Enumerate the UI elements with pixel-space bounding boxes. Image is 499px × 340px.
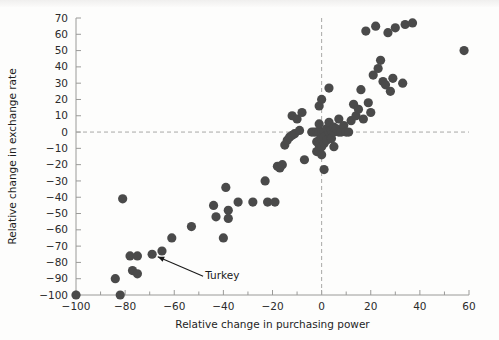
data-point <box>359 114 368 123</box>
data-point <box>219 233 228 242</box>
axes-layer: −100−90−80−70−60−50−40−30−20−10010203040… <box>39 12 476 312</box>
data-point <box>295 126 304 135</box>
data-point <box>278 160 287 169</box>
annotation-layer: Turkey <box>158 257 240 282</box>
scatter-plot: −100−90−80−70−60−50−40−30−20−10010203040… <box>0 0 499 340</box>
x-tick-label: −40 <box>212 300 234 312</box>
y-axis-title: Relative change in exchange rate <box>6 68 18 244</box>
data-point <box>270 198 279 207</box>
x-tick-label: −60 <box>163 300 185 312</box>
y-tick-label: 10 <box>55 109 68 121</box>
x-tick-label: 20 <box>364 300 377 312</box>
data-point <box>224 214 233 223</box>
data-point <box>300 155 309 164</box>
data-point <box>366 108 375 117</box>
x-axis-title: Relative change in purchasing power <box>175 318 370 330</box>
data-point <box>209 201 218 210</box>
data-point <box>356 85 365 94</box>
annotation-label-turkey: Turkey <box>204 269 239 281</box>
x-tick-label: 60 <box>462 300 475 312</box>
y-tick-label: 50 <box>55 44 68 56</box>
data-point <box>391 23 400 32</box>
y-tick-label: 30 <box>55 77 68 89</box>
data-point <box>388 74 397 83</box>
data-point <box>374 64 383 73</box>
y-tick-label: 40 <box>55 60 68 72</box>
y-tick-label: −10 <box>46 142 68 154</box>
data-point <box>317 95 326 104</box>
y-tick-label: 70 <box>55 12 68 24</box>
y-tick-label: −30 <box>46 175 68 187</box>
y-tick-label: −100 <box>39 289 68 301</box>
y-tick-label: −50 <box>46 207 68 219</box>
y-tick-label: −80 <box>46 256 68 268</box>
x-tick-label: −20 <box>261 300 283 312</box>
data-point <box>221 183 230 192</box>
annotation-arrow-line <box>158 257 203 277</box>
data-point <box>234 198 243 207</box>
data-point <box>329 142 338 151</box>
data-point <box>459 46 468 55</box>
y-tick-label: −90 <box>46 272 68 284</box>
data-point <box>118 194 127 203</box>
data-point <box>376 56 385 65</box>
figure-container: −100−90−80−70−60−50−40−30−20−10010203040… <box>0 0 499 340</box>
y-tick-label: −60 <box>46 223 68 235</box>
data-point <box>364 98 373 107</box>
x-tick-label: 0 <box>318 300 325 312</box>
data-point <box>133 251 142 260</box>
data-point <box>398 79 407 88</box>
data-point <box>248 198 257 207</box>
x-tick-label: 40 <box>413 300 426 312</box>
data-point <box>111 274 120 283</box>
y-tick-label: −20 <box>46 158 68 170</box>
data-point <box>408 18 417 27</box>
data-point <box>187 222 196 231</box>
data-point <box>319 165 328 174</box>
data-point <box>317 150 326 159</box>
data-point <box>354 105 363 114</box>
y-tick-label: 20 <box>55 93 68 105</box>
y-tick-label: 0 <box>61 126 68 138</box>
data-point <box>297 108 306 117</box>
data-point <box>71 290 80 299</box>
data-point <box>148 250 157 259</box>
data-point <box>133 269 142 278</box>
data-point <box>344 127 353 136</box>
data-point <box>116 290 125 299</box>
y-tick-label: 60 <box>55 28 68 40</box>
x-tick-label: −80 <box>114 300 136 312</box>
data-point <box>211 212 220 221</box>
data-point <box>261 176 270 185</box>
data-point <box>324 83 333 92</box>
y-tick-label: −40 <box>46 191 68 203</box>
data-point <box>361 26 370 35</box>
x-tick-label: −100 <box>62 300 91 312</box>
data-point <box>167 233 176 242</box>
data-point <box>371 22 380 31</box>
y-tick-label: −70 <box>46 240 68 252</box>
data-point-layer <box>71 18 468 299</box>
data-point <box>386 87 395 96</box>
data-point <box>224 206 233 215</box>
data-point <box>157 246 166 255</box>
